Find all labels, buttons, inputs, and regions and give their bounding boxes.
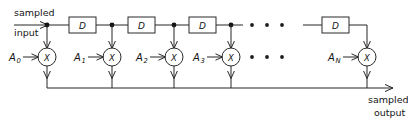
summing-bus <box>47 85 393 92</box>
delay-box-1-label: D <box>79 21 86 31</box>
coef-0-base: A <box>8 52 16 63</box>
multiplier-1: X <box>103 48 121 66</box>
coef-n-subscript: N <box>336 57 341 65</box>
multiplier-0-symbol: X <box>43 53 50 63</box>
coef-2-subscript: 2 <box>144 57 148 65</box>
multiplier-3-symbol: X <box>227 53 234 63</box>
multiplier-2: X <box>165 48 183 66</box>
delay-box-1: D <box>69 17 96 33</box>
delay-box-2: D <box>128 17 155 33</box>
output-label-top: sampled <box>368 94 408 105</box>
multiplier-1-symbol: X <box>108 53 115 63</box>
ellipsis-top-dot-1 <box>250 23 254 27</box>
multiplier-n: X <box>358 48 376 66</box>
coef-1-base: A <box>73 52 81 63</box>
ellipsis-top-dot-2 <box>265 23 269 27</box>
ellipsis-bottom-dot-2 <box>265 55 269 59</box>
diagram-canvas: D D D D <box>0 0 408 122</box>
coef-1-subscript: 1 <box>82 57 86 65</box>
multiplier-output-wires <box>44 66 371 88</box>
delay-box-3: D <box>189 17 216 33</box>
coefficient-label-0: A 0 <box>8 52 21 66</box>
coef-3-base: A <box>192 52 200 63</box>
input-label-bottom: input <box>14 27 39 38</box>
delay-box-2-label: D <box>138 21 145 31</box>
multiplier-0: X <box>38 48 56 66</box>
delay-box-4: D <box>322 17 349 33</box>
multiplier-3: X <box>222 48 240 66</box>
fir-filter-diagram: D D D D <box>0 0 408 122</box>
delay-box-4-label: D <box>332 21 339 31</box>
coefficient-label-3: A 3 <box>192 52 205 66</box>
ellipsis-top <box>250 23 284 27</box>
output-label-bottom: output <box>374 107 406 118</box>
coef-3-subscript: 3 <box>201 57 205 65</box>
ellipsis-top-dot-3 <box>280 23 284 27</box>
multiplier-2-symbol: X <box>170 53 177 63</box>
coef-2-base: A <box>135 52 143 63</box>
coef-n-base: A <box>327 52 335 63</box>
ellipsis-bottom-dot-1 <box>250 55 254 59</box>
ellipsis-bottom <box>250 55 284 59</box>
coef-0-subscript: 0 <box>17 57 21 65</box>
input-label-top: sampled <box>14 7 55 18</box>
coefficient-label-2: A 2 <box>135 52 148 66</box>
coefficient-label-n: A N <box>327 52 341 66</box>
multiplier-n-symbol: X <box>363 53 370 63</box>
delay-box-3-label: D <box>199 21 206 31</box>
coefficient-label-1: A 1 <box>73 52 86 66</box>
ellipsis-bottom-dot-3 <box>280 55 284 59</box>
